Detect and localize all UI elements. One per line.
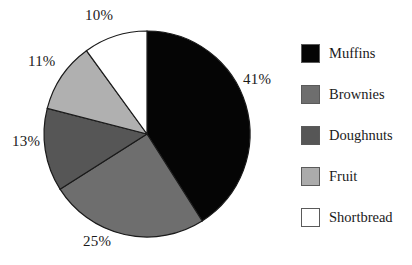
legend-label: Fruit bbox=[329, 169, 357, 184]
pie-svg bbox=[0, 0, 290, 265]
slice-label-brownies: 25% bbox=[83, 233, 111, 250]
legend-label: Doughnuts bbox=[329, 128, 393, 143]
legend-swatch-icon-shortbread bbox=[301, 208, 320, 227]
legend-label: Shortbread bbox=[329, 210, 393, 225]
pie-plot-area: 10% 11% 13% 25% 41% bbox=[0, 0, 290, 265]
chart-legend: MuffinsBrowniesDoughnutsFruitShortbread bbox=[301, 44, 412, 227]
legend-swatch-icon-muffins bbox=[301, 44, 320, 63]
legend-item-brownies[interactable]: Brownies bbox=[301, 85, 412, 104]
legend-label: Brownies bbox=[329, 87, 385, 102]
slice-label-muffins: 41% bbox=[243, 71, 271, 88]
slice-label-shortbread: 10% bbox=[85, 7, 113, 24]
legend-swatch-icon-brownies bbox=[301, 85, 320, 104]
slice-label-fruit: 11% bbox=[28, 53, 56, 70]
pie-slice-group bbox=[44, 31, 250, 237]
legend-item-doughnuts[interactable]: Doughnuts bbox=[301, 126, 412, 145]
pie-chart-figure: 10% 11% 13% 25% 41% MuffinsBrowniesDough… bbox=[0, 0, 412, 265]
legend-swatch-icon-fruit bbox=[301, 167, 320, 186]
slice-label-doughnuts: 13% bbox=[12, 133, 40, 150]
legend-label: Muffins bbox=[329, 46, 375, 61]
legend-item-shortbread[interactable]: Shortbread bbox=[301, 208, 412, 227]
legend-item-fruit[interactable]: Fruit bbox=[301, 167, 412, 186]
legend-item-muffins[interactable]: Muffins bbox=[301, 44, 412, 63]
legend-swatch-icon-doughnuts bbox=[301, 126, 320, 145]
